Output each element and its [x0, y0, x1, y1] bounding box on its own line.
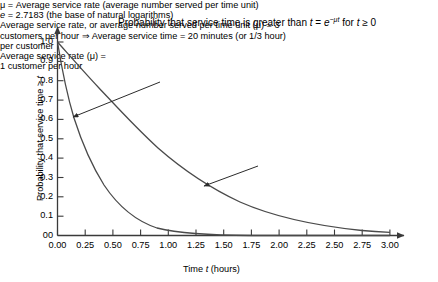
y-tick-label: 0.5	[27, 133, 53, 144]
x-axis-label: Time t (hours)	[183, 264, 240, 275]
x-tick-label: 1.50	[209, 240, 239, 251]
x-tick-label: 1.00	[153, 240, 183, 251]
x-tick-label: 2.75	[347, 240, 377, 251]
y-tick-label: 0.7	[27, 94, 53, 105]
x-tick-label: 2.25	[292, 240, 322, 251]
chart-figure: Probability that service time is greater…	[0, 0, 438, 282]
y-tick-label: 0.6	[27, 113, 53, 124]
x-axis-label-post: (hours)	[208, 264, 240, 274]
x-tick-label: 1.25	[181, 240, 211, 251]
y-tick-label: 1.0	[27, 36, 53, 47]
x-tick-label: 2.50	[320, 240, 350, 251]
y-tick-label: 0.9	[27, 55, 53, 66]
curve-mu-1	[58, 42, 390, 232]
x-tick-label: 0.75	[126, 240, 156, 251]
x-tick-label: 2.00	[264, 240, 294, 251]
chart-title: Probability that service time is greater…	[118, 14, 376, 28]
annotation-arrow-mu1	[204, 166, 258, 186]
y-tick-label: 0.8	[27, 75, 53, 86]
x-tick-label: 0.50	[98, 240, 128, 251]
chart-title-eq: =	[313, 17, 324, 28]
y-tick-label: 00	[27, 230, 53, 241]
x-tick-label: 0.25	[70, 240, 100, 251]
y-tick-label: 0.2	[27, 191, 53, 202]
chart-title-tail: for	[339, 17, 356, 28]
annotation-arrow-mu3	[73, 82, 160, 117]
y-tick-label: 0.4	[27, 152, 53, 163]
chart-title-lead: Probability that service time is greater…	[118, 17, 310, 28]
curve-mu-3	[58, 42, 390, 236]
y-tick-label: 0.3	[27, 172, 53, 183]
y-tick-label: 0.1	[27, 210, 53, 221]
chart-title-exponent: −μt	[330, 16, 340, 23]
x-tick-label: 0.00	[43, 240, 73, 251]
chart-title-condition: ≥ 0	[359, 17, 376, 28]
x-tick-label: 3.00	[375, 240, 405, 251]
x-axis-label-pre: Time	[183, 264, 206, 274]
x-tick-label: 1.75	[236, 240, 266, 251]
